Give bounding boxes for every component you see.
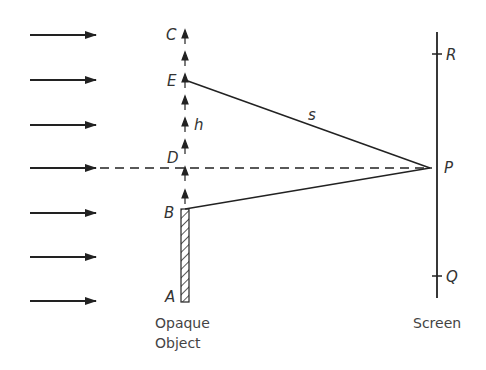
label-P: P (444, 159, 454, 177)
label-B: B (164, 204, 174, 222)
wavefront-arrows (182, 30, 188, 204)
label-E: E (167, 72, 177, 90)
ray-EP (185, 80, 430, 168)
label-D: D (167, 149, 179, 167)
label-Q: Q (446, 268, 458, 286)
diffraction-diagram: C E h D B A s P R Q Opaque Object Screen (0, 0, 486, 370)
label-C: C (166, 26, 177, 44)
caption-screen: Screen (413, 315, 461, 331)
incident-light-arrows (30, 35, 96, 301)
opaque-object (181, 209, 189, 302)
label-s: s (308, 106, 316, 124)
ray-BP (185, 168, 430, 209)
caption-opaque: Opaque (155, 315, 210, 331)
caption-object: Object (155, 335, 201, 351)
label-h: h (194, 116, 204, 134)
label-R: R (446, 46, 456, 64)
label-A: A (164, 288, 175, 306)
